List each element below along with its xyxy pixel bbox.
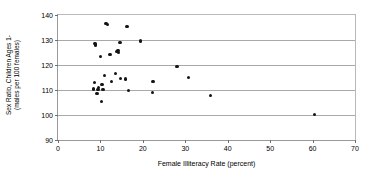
data-point [93, 81, 96, 84]
y-tick-mark [55, 115, 58, 116]
x-tick-label: 30 [181, 145, 189, 152]
y-tick-label: 90 [45, 137, 53, 144]
data-point [101, 88, 104, 91]
x-tick-mark [355, 140, 356, 143]
x-tick-mark [185, 140, 186, 143]
data-point [125, 25, 128, 28]
x-tick-mark [100, 140, 101, 143]
y-axis-title-line1: Sex Ratio, Children Ages 1- [5, 15, 13, 135]
y-tick-label: 110 [42, 87, 53, 94]
data-point [97, 86, 100, 89]
x-axis-title: Female Illiteracy Rate (percent) [57, 160, 356, 168]
data-point [151, 80, 154, 83]
x-tick-mark [58, 140, 59, 143]
data-point [124, 77, 127, 80]
plot-area: 90100110120130140010203040506070 [57, 14, 356, 141]
data-point [106, 23, 109, 26]
data-point [99, 55, 102, 58]
data-point [100, 83, 103, 86]
y-axis-title-line2: (males per 100 females) [13, 15, 21, 135]
x-tick-mark [313, 140, 314, 143]
x-tick-label: 60 [309, 145, 317, 152]
data-point [117, 51, 120, 54]
y-tick-label: 120 [41, 62, 53, 69]
x-tick-label: 70 [351, 145, 359, 152]
data-point [209, 94, 212, 97]
x-tick-mark [228, 140, 229, 143]
y-tick-mark [55, 40, 58, 41]
x-tick-label: 50 [266, 145, 274, 152]
x-tick-mark [270, 140, 271, 143]
x-tick-label: 0 [56, 145, 60, 152]
x-tick-mark [143, 140, 144, 143]
y-tick-mark [55, 90, 58, 91]
x-tick-label: 40 [224, 145, 232, 152]
data-point [187, 76, 190, 79]
data-point [110, 80, 113, 83]
y-tick-mark [55, 65, 58, 66]
data-point [151, 91, 154, 94]
data-point [127, 89, 130, 92]
y-tick-label: 100 [41, 112, 53, 119]
data-point [103, 74, 106, 77]
data-point [119, 77, 122, 80]
data-point [95, 92, 98, 95]
y-tick-label: 140 [41, 12, 53, 19]
data-point [100, 100, 103, 103]
x-tick-label: 20 [139, 145, 147, 152]
scatter-chart-figure: Sex Ratio, Children Ages 1- (males per 1… [0, 0, 372, 177]
y-gridline [58, 65, 355, 66]
data-point [108, 53, 111, 56]
y-gridline [58, 40, 355, 41]
x-tick-label: 10 [97, 145, 105, 152]
data-point [118, 41, 121, 44]
y-tick-mark [55, 15, 58, 16]
data-point [114, 72, 117, 75]
data-point [139, 39, 142, 42]
data-point [175, 65, 178, 68]
y-axis-title: Sex Ratio, Children Ages 1- (males per 1… [0, 0, 40, 150]
y-gridline [58, 115, 355, 116]
y-tick-label: 130 [41, 37, 53, 44]
